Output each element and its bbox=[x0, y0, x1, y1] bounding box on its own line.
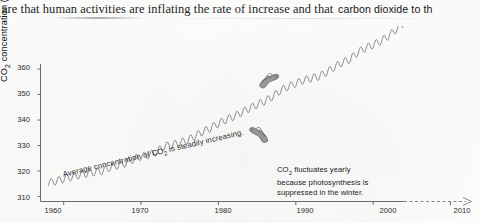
y-tick-330: 330 bbox=[8, 141, 30, 150]
hand-pointing-icon bbox=[246, 124, 272, 144]
hand-pointing-icon bbox=[256, 70, 282, 90]
annotation-seasonal-line3: suppressed in the winter. bbox=[277, 188, 407, 198]
x-tick-2010: 2010 bbox=[442, 206, 480, 215]
annotation-seasonal-line1-main: CO bbox=[277, 165, 289, 174]
x-tick-1990: 1990 bbox=[285, 206, 325, 215]
x-axis-tick-marks bbox=[64, 202, 451, 206]
co2-series-projected bbox=[403, 26, 434, 28]
y-axis-title-rest: concentration (parts per million) bbox=[0, 0, 9, 64]
scanned-page: are that human activities are inflating … bbox=[0, 0, 480, 223]
body-text-left-column: are that human activities are inflating … bbox=[2, 2, 333, 17]
x-tick-1960: 1960 bbox=[33, 206, 73, 215]
y-tick-360: 360 bbox=[8, 63, 30, 72]
y-tick-310: 310 bbox=[8, 193, 30, 202]
annotation-seasonal-line1: CO2 fluctuates yearly bbox=[277, 165, 407, 178]
chart-plot-area bbox=[0, 26, 480, 223]
x-tick-1970: 1970 bbox=[120, 206, 160, 215]
co2-concentration-chart: CO2 concentration (parts per million) 36… bbox=[0, 26, 480, 223]
x-tick-2000: 2000 bbox=[368, 206, 408, 215]
y-tick-340: 340 bbox=[8, 115, 30, 124]
annotation-seasonal-line2: because photosynthesis is bbox=[277, 178, 407, 188]
annotation-seasonal-line1-rest: fluctuates yearly bbox=[292, 165, 351, 174]
y-tick-350: 350 bbox=[8, 89, 30, 98]
scan-smudge-faint bbox=[150, 18, 450, 19]
y-tick-320: 320 bbox=[8, 167, 30, 176]
annotation-seasonal-fluctuation: CO2 fluctuates yearly because photosynth… bbox=[277, 165, 407, 198]
body-text-right-column: carbon dioxide to th bbox=[338, 3, 432, 15]
x-axis-arrowhead bbox=[463, 198, 472, 206]
scan-smudge bbox=[52, 17, 144, 19]
x-tick-1980: 1980 bbox=[203, 206, 243, 215]
